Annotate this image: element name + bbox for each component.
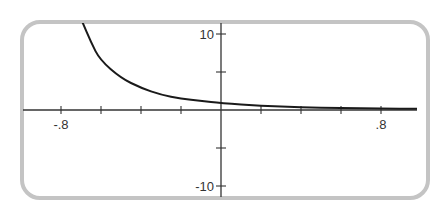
x-tick-label: .8 xyxy=(376,117,387,132)
x-tick-label: -.8 xyxy=(53,117,68,132)
data-series xyxy=(82,21,418,109)
y-tick-label: -10 xyxy=(195,179,214,194)
curve-line xyxy=(82,21,418,109)
y-tick-label: 10 xyxy=(200,27,214,42)
axes xyxy=(23,23,417,197)
